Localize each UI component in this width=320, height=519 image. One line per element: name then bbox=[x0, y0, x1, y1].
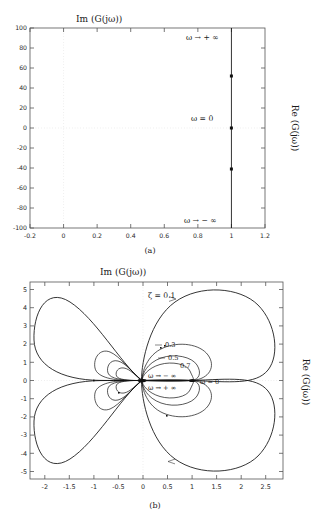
y-tick-label: 5 bbox=[23, 286, 27, 294]
y-tick-label: 0 bbox=[23, 377, 27, 385]
y-tick-label: 3 bbox=[23, 322, 27, 330]
panel-a-x-ticks: -0.2 0 0.2 0.4 0.6 0.8 1 1.2 bbox=[24, 28, 270, 239]
x-tick-label: 0 bbox=[62, 232, 66, 239]
panel-a-right-axis-label: Re (G(jω)) bbox=[290, 105, 300, 151]
x-tick-label: -0.5 bbox=[112, 483, 124, 491]
panel-a: -0.2 0 0.2 0.4 0.6 0.8 1 1.2 bbox=[0, 0, 320, 260]
y-tick-label: -4 bbox=[21, 450, 27, 458]
y-tick-label: 40 bbox=[19, 84, 27, 91]
panel-b-nyquist-curves bbox=[34, 290, 275, 471]
x-tick-label: 1.2 bbox=[260, 232, 270, 239]
x-tick-label: -1.5 bbox=[63, 483, 75, 491]
y-tick-label: 80 bbox=[19, 44, 27, 51]
x-tick-label: 0.6 bbox=[159, 232, 169, 239]
y-tick-label: 60 bbox=[19, 64, 27, 71]
x-tick-label: 0.8 bbox=[193, 232, 203, 239]
annotation-zeta-0-3: 0.3 bbox=[165, 341, 176, 349]
x-tick-label: -2 bbox=[42, 483, 48, 491]
panel-a-top-axis-label: Im (G(jω)) bbox=[76, 14, 122, 24]
y-tick-label: -3 bbox=[21, 431, 27, 439]
origin-convergence-marker bbox=[138, 379, 147, 383]
x-tick-label: -1 bbox=[91, 483, 97, 491]
panel-b-right-axis-label: Re (G(jω)) bbox=[301, 359, 311, 405]
panel-b-caption: (b) bbox=[149, 501, 160, 510]
x-tick-label: 2.5 bbox=[261, 483, 271, 491]
annotation-omega-minus-infinity: ω → − ∞ bbox=[184, 216, 217, 225]
panel-a-caption: (a) bbox=[144, 246, 155, 255]
panel-b-top-axis-label: Im (G(jω)) bbox=[100, 267, 146, 277]
panel-a-axes bbox=[30, 28, 265, 228]
y-tick-label: -20 bbox=[17, 144, 27, 151]
annotation-omega-plus-infinity: ω → + ∞ bbox=[186, 33, 219, 42]
panel-a-svg: -0.2 0 0.2 0.4 0.6 0.8 1 1.2 bbox=[0, 0, 320, 260]
annotation-omega-minus-infinity: ω → − ∞ bbox=[148, 372, 176, 380]
y-tick-label: -5 bbox=[21, 468, 27, 476]
data-marker bbox=[230, 168, 233, 171]
annotation-omega-plus-infinity: ω → + ∞ bbox=[148, 384, 176, 392]
y-tick-label: 20 bbox=[19, 104, 27, 111]
annotation-omega-zero: ω = 0 bbox=[200, 378, 219, 386]
x-tick-label: 1 bbox=[229, 232, 233, 239]
omega-zero-marker bbox=[189, 379, 195, 382]
x-tick-label: 2 bbox=[239, 483, 243, 491]
panel-a-grid bbox=[30, 28, 265, 228]
y-tick-label: -40 bbox=[17, 164, 27, 171]
annotation-omega-zero: ω = 0 bbox=[191, 114, 213, 123]
annotation-zeta-0-5: 0.5 bbox=[168, 354, 179, 362]
data-marker bbox=[230, 75, 233, 78]
x-tick-label: 0.4 bbox=[126, 232, 136, 239]
x-tick-label: 0 bbox=[141, 483, 145, 491]
y-tick-label: -60 bbox=[17, 184, 27, 191]
x-tick-label: 0.2 bbox=[92, 232, 102, 239]
panel-b: -2 -1.5 -1 -0.5 0 0.5 1 1.5 2 2.5 bbox=[0, 260, 320, 519]
y-tick-label: -80 bbox=[17, 204, 27, 211]
y-tick-label: -100 bbox=[13, 224, 27, 231]
y-tick-label: 0 bbox=[23, 124, 27, 131]
y-tick-label: -2 bbox=[21, 413, 27, 421]
panel-b-svg: -2 -1.5 -1 -0.5 0 0.5 1 1.5 2 2.5 bbox=[0, 260, 320, 519]
panel-a-nyquist-curve bbox=[230, 28, 233, 228]
annotation-zeta-0-1: ζ = 0.1 bbox=[148, 291, 175, 300]
y-tick-label: -1 bbox=[21, 395, 27, 403]
x-tick-label: -0.2 bbox=[24, 232, 36, 239]
x-tick-label: 1 bbox=[190, 483, 194, 491]
y-tick-label: 4 bbox=[23, 304, 27, 312]
y-tick-label: 1 bbox=[23, 359, 27, 367]
x-tick-label: 1.5 bbox=[212, 483, 222, 491]
y-tick-label: 2 bbox=[23, 340, 27, 348]
panel-a-y-ticks: 100 80 60 40 20 0 -20 -40 -60 -80 -100 bbox=[13, 24, 265, 231]
annotation-zeta-0-7: 0.7 bbox=[180, 362, 191, 370]
x-tick-label: 0.5 bbox=[162, 483, 172, 491]
y-tick-label: 100 bbox=[15, 24, 27, 31]
data-marker bbox=[230, 127, 233, 130]
